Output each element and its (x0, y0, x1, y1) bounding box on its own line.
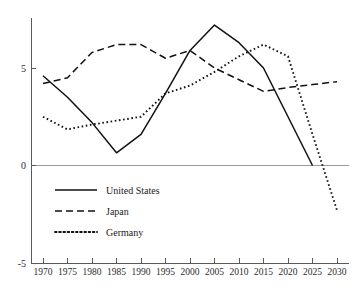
x-tick-label: 2025 (303, 267, 322, 277)
x-tick-label: 1980 (83, 267, 102, 277)
x-axis-tick-labels: 1970197519801985199019952000200520102015… (34, 267, 347, 277)
legend-label-united-states: United States (106, 185, 160, 196)
y-tick-label: 0 (21, 160, 26, 171)
x-tick-label: 1970 (34, 267, 53, 277)
x-tick-label: 2015 (254, 267, 273, 277)
y-tick-label: 5 (21, 63, 26, 74)
line-chart: 1970197519801985199019952000200520102015… (0, 0, 358, 294)
legend-label-germany: Germany (106, 227, 143, 238)
y-axis-tick-labels: 50-5 (18, 63, 26, 269)
x-tick-label: 1990 (132, 267, 151, 277)
data-series (43, 25, 337, 210)
chart-canvas: 1970197519801985199019952000200520102015… (0, 0, 358, 294)
y-tick-label: -5 (18, 258, 26, 269)
x-tick-label: 2020 (279, 267, 298, 277)
x-tick-label: 2030 (328, 267, 347, 277)
x-tick-label: 2010 (230, 267, 249, 277)
x-tick-label: 1975 (58, 267, 77, 277)
y-axis-ticks (31, 68, 36, 263)
x-tick-label: 2000 (181, 267, 200, 277)
legend-label-japan: Japan (106, 206, 129, 217)
x-tick-label: 1995 (156, 267, 175, 277)
series-line-united-states (43, 25, 313, 165)
x-axis-ticks (43, 258, 337, 263)
x-tick-label: 1985 (107, 267, 126, 277)
x-tick-label: 2005 (205, 267, 224, 277)
chart-legend: United StatesJapanGermany (55, 185, 160, 238)
chart-axes (31, 18, 349, 263)
